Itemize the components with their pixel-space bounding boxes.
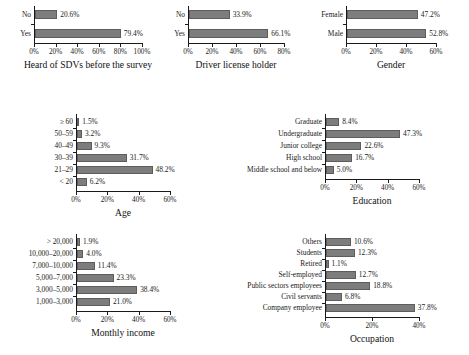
chart-panel-gender: 0%20%40%60%Male52.8%Female47.2%Gender <box>306 4 469 100</box>
x-tick-label: 0% <box>71 196 81 204</box>
x-axis-line <box>346 43 437 44</box>
x-tick-label: 60% <box>253 48 266 56</box>
x-tick-label: 60% <box>163 196 176 204</box>
bar-value-label: 8.4% <box>342 118 357 126</box>
x-tick-mark <box>139 312 140 315</box>
bar-value-label: 10.6% <box>354 238 373 246</box>
category-label: Undergraduate <box>26 130 322 138</box>
x-tick-label: 40% <box>412 322 425 330</box>
category-label: Students <box>26 249 322 257</box>
x-tick-label: 60% <box>412 184 425 192</box>
chart-title-heard-of-sdvs: Heard of SDVs before the survey <box>2 59 174 70</box>
x-tick-label: 20% <box>369 48 382 56</box>
x-tick-mark <box>170 192 171 195</box>
y-tick-mark <box>73 140 76 141</box>
category-label: Junior college <box>26 142 322 150</box>
y-tick-mark <box>322 164 325 165</box>
bar <box>326 130 400 138</box>
bar <box>326 260 329 268</box>
y-tick-mark <box>185 24 188 25</box>
x-tick-mark <box>388 180 389 183</box>
x-tick-mark <box>170 312 171 315</box>
y-tick-mark <box>322 128 325 129</box>
bar <box>347 10 418 19</box>
x-tick-mark <box>77 44 78 47</box>
x-tick-mark <box>76 192 77 195</box>
x-tick-mark <box>325 180 326 183</box>
x-tick-label: 100% <box>134 48 151 56</box>
x-tick-label: 40% <box>381 184 394 192</box>
bar <box>326 304 415 312</box>
x-tick-label: 0% <box>320 322 330 330</box>
x-tick-mark <box>139 192 140 195</box>
category-label: Middle school and below <box>26 166 322 174</box>
x-tick-label: 20% <box>365 322 378 330</box>
x-tick-mark <box>212 44 213 47</box>
bar <box>326 293 342 301</box>
x-tick-mark <box>99 44 100 47</box>
y-tick-mark <box>322 152 325 153</box>
bar <box>326 238 351 246</box>
y-tick-mark <box>322 140 325 141</box>
x-tick-label: 60% <box>429 48 442 56</box>
bar-value-label: 1.1% <box>332 260 347 268</box>
bar-value-label: 22.6% <box>364 142 383 150</box>
bar-chart-occupation: 0%20%40%Company employee37.8%Civil serva… <box>229 232 469 350</box>
x-tick-label: 0% <box>71 316 81 324</box>
x-tick-label: 40% <box>132 196 145 204</box>
x-tick-label: 0% <box>320 184 330 192</box>
x-tick-mark <box>356 180 357 183</box>
x-tick-mark <box>436 44 437 47</box>
x-tick-label: 80% <box>277 48 290 56</box>
bar-value-label: 6.8% <box>345 293 360 301</box>
x-tick-label: 60% <box>92 48 105 56</box>
y-tick-mark <box>322 303 325 304</box>
x-tick-mark <box>376 44 377 47</box>
bar-value-label: 47.2% <box>421 11 440 19</box>
y-tick-mark <box>73 128 76 129</box>
x-axis-line <box>76 191 171 192</box>
bar-value-label: 6.2% <box>90 178 105 186</box>
bar-value-label: 37.8% <box>418 304 437 312</box>
x-tick-label: 0% <box>341 48 351 56</box>
x-tick-mark <box>419 318 420 321</box>
category-label: High school <box>26 154 322 162</box>
category-label: Public sectors employees <box>26 282 322 290</box>
category-label: Others <box>26 238 322 246</box>
y-tick-mark <box>322 259 325 260</box>
bar-chart-age: 0%20%40%60%< 206.2%21–2948.2%30–3931.7%4… <box>10 112 225 212</box>
bar <box>326 142 361 150</box>
chart-title-monthly-income: Monthly income <box>6 327 240 338</box>
chart-title-age: Age <box>10 207 236 218</box>
x-tick-mark <box>284 44 285 47</box>
chart-title-gender: Gender <box>306 59 469 70</box>
bar-chart-education: 0%20%40%60%Middle school and below5.0%Hi… <box>229 112 469 212</box>
x-tick-label: 0% <box>183 48 193 56</box>
chart-title-driver-license-holder: Driver license holder <box>156 59 316 70</box>
x-tick-label: 20% <box>350 184 363 192</box>
x-tick-label: 20% <box>205 48 218 56</box>
y-tick-mark <box>322 292 325 293</box>
x-tick-mark <box>188 44 189 47</box>
bar-value-label: 52.8% <box>429 30 448 38</box>
category-label: Graduate <box>26 118 322 126</box>
category-label: Company employee <box>26 304 322 312</box>
y-tick-mark <box>343 24 346 25</box>
y-tick-mark <box>73 152 76 153</box>
x-tick-label: 40% <box>399 48 412 56</box>
chart-panel-occupation: 0%20%40%Company employee37.8%Civil serva… <box>229 232 469 350</box>
category-label: < 20 <box>0 178 73 186</box>
bar <box>326 154 352 162</box>
x-tick-label: 40% <box>229 48 242 56</box>
y-tick-mark <box>31 24 34 25</box>
bar <box>326 249 355 257</box>
bar-value-label: 12.3% <box>358 249 377 257</box>
x-tick-label: 80% <box>114 48 127 56</box>
chart-title-occupation: Occupation <box>229 333 469 344</box>
x-tick-label: 60% <box>163 316 176 324</box>
x-tick-mark <box>120 44 121 47</box>
x-tick-mark <box>56 44 57 47</box>
x-tick-mark <box>406 44 407 47</box>
bar-value-label: 12.7% <box>359 271 378 279</box>
x-tick-label: 0% <box>29 48 39 56</box>
